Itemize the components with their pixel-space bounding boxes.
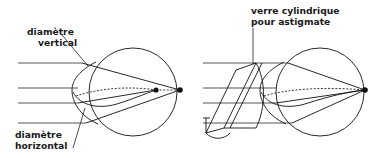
refracted-ray-mid-low-left xyxy=(78,90,156,103)
eyeball-outline-left xyxy=(89,48,177,136)
refracted-ray-top-right xyxy=(288,63,365,90)
focus-vertical-meridian xyxy=(153,87,158,92)
incoming-rays-left xyxy=(18,63,86,123)
refracted-ray-top-left xyxy=(82,63,180,90)
label-vertical-diameter-line2: vertical xyxy=(38,37,77,48)
label-cylindrical-lens-line2: pour astigmate xyxy=(251,16,330,27)
cylindrical-lens-prism xyxy=(203,28,264,138)
focus-single-corrected xyxy=(362,87,368,93)
refracted-bundle-right xyxy=(276,63,365,123)
refracted-bundle-vertical-left xyxy=(78,63,180,123)
leader-horizontal-diameter xyxy=(73,108,85,148)
lens-edge-depth-bottom xyxy=(206,128,224,133)
focus-horizontal-meridian xyxy=(177,87,183,93)
diagram-canvas: diamètre vertical diamètre horizontal xyxy=(0,0,390,158)
label-horizontal-diameter-line1: diamètre xyxy=(15,129,62,140)
label-cylindrical-lens-line1: verre cylindrique xyxy=(251,5,340,16)
incoming-rays-right xyxy=(203,63,256,123)
lens-face-curve-back xyxy=(206,133,230,138)
panel-corrected-eye xyxy=(203,28,368,138)
lens-edge-back-left xyxy=(206,70,236,133)
label-horizontal-diameter-line2: horizontal xyxy=(15,140,67,151)
lens-edge-front-left xyxy=(224,63,256,128)
astigmatism-figure: diamètre vertical diamètre horizontal xyxy=(0,0,390,158)
label-vertical-diameter-line1: diamètre xyxy=(27,26,74,37)
